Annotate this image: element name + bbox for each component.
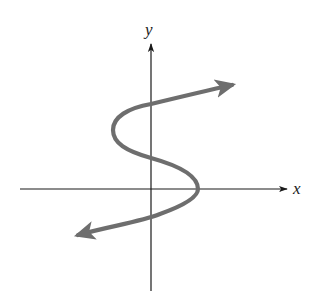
graph: y x bbox=[0, 0, 317, 299]
s-curve bbox=[78, 85, 232, 235]
x-axis-label: x bbox=[292, 179, 301, 198]
y-axis-label: y bbox=[143, 20, 153, 39]
